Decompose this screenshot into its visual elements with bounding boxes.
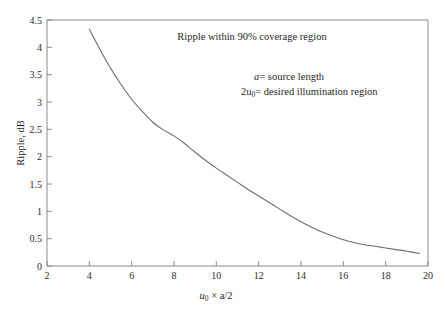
- y-tick-label: 0.5: [30, 233, 43, 244]
- x-tick-label: 16: [338, 270, 348, 281]
- svg-text:u0 × a/2: u0 × a/2: [199, 290, 232, 303]
- y-axis-title: Ripple, dB: [15, 120, 26, 166]
- y-tick-label: 2: [37, 151, 42, 162]
- chart-canvas: 0 0.5 1 1.5 2 2.5 3 3.5 4 4.5 2: [0, 0, 445, 314]
- annotation-source-length: a= source length: [254, 71, 325, 82]
- y-axis-title-text: Ripple, dB: [15, 120, 26, 166]
- ripple-curve: [89, 29, 419, 253]
- x-tick-labels: 2 4 6 8 10 12 14 16 18 20: [45, 270, 434, 281]
- annotation-coverage: Ripple within 90% coverage region: [177, 31, 327, 42]
- annotation-source-rest: = source length: [259, 71, 325, 82]
- x-axis-title-rest: × a/2: [211, 290, 232, 301]
- ripple-chart-figure: 0 0.5 1 1.5 2 2.5 3 3.5 4 4.5 2: [0, 0, 445, 314]
- y-tick-label: 4.5: [30, 15, 43, 26]
- annotation-illum-rest: = desired illumination region: [255, 86, 378, 97]
- x-tick-label: 8: [172, 270, 177, 281]
- x-tick-label: 20: [423, 270, 433, 281]
- y-tick-label: 2.5: [30, 124, 43, 135]
- chart-annotations: Ripple within 90% coverage region a= sou…: [177, 31, 378, 99]
- y-tick-label: 1: [37, 206, 42, 217]
- y-tick-label: 3.5: [30, 69, 43, 80]
- y-tick-label: 1.5: [30, 179, 43, 190]
- x-axis-ticks: [47, 261, 428, 266]
- y-axis-ticks: [47, 20, 52, 266]
- x-tick-label: 4: [87, 270, 92, 281]
- x-tick-label: 6: [129, 270, 134, 281]
- x-axis-title: u0 × a/2: [199, 290, 232, 303]
- x-tick-label: 10: [211, 270, 221, 281]
- y-tick-labels: 0 0.5 1 1.5 2 2.5 3 3.5 4 4.5: [30, 15, 43, 272]
- y-tick-label: 4: [37, 42, 42, 53]
- x-tick-label: 18: [381, 270, 391, 281]
- y-tick-label: 0: [37, 261, 42, 272]
- x-tick-label: 14: [296, 270, 306, 281]
- x-tick-label: 2: [45, 270, 50, 281]
- annotation-illumination: 2u0= desired illumination region: [241, 86, 378, 99]
- y-tick-label: 3: [37, 97, 42, 108]
- x-tick-label: 12: [254, 270, 264, 281]
